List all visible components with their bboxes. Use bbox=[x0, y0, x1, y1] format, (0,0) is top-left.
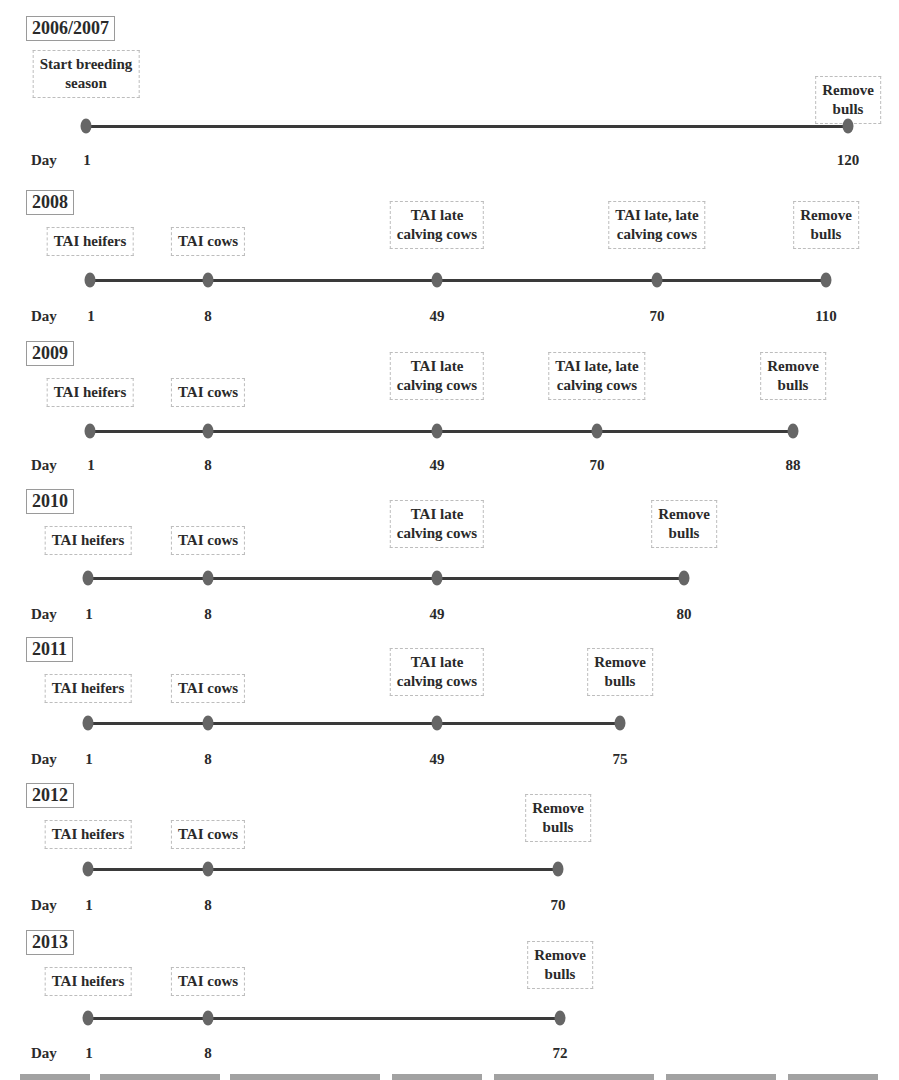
year-label: 2012 bbox=[26, 783, 74, 808]
day-axis-label: Day bbox=[31, 897, 57, 914]
day-axis-label: Day bbox=[31, 1045, 57, 1062]
event-marker bbox=[85, 273, 96, 288]
day-number: 72 bbox=[553, 1045, 568, 1062]
day-number: 70 bbox=[551, 897, 566, 914]
day-number: 8 bbox=[204, 751, 212, 768]
event-label: Remove bulls bbox=[793, 201, 859, 249]
event-label: TAI heifers bbox=[47, 378, 134, 407]
day-number: 8 bbox=[204, 457, 212, 474]
timeline-line bbox=[88, 577, 684, 580]
event-label: Remove bulls bbox=[815, 76, 881, 124]
day-number: 75 bbox=[613, 751, 628, 768]
event-label: TAI late, late calving cows bbox=[608, 201, 705, 249]
year-label: 2009 bbox=[26, 341, 74, 366]
event-marker bbox=[432, 571, 443, 586]
event-label: TAI cows bbox=[171, 526, 245, 555]
event-label: TAI cows bbox=[171, 227, 245, 256]
timeline-line bbox=[88, 722, 620, 725]
timeline-line bbox=[90, 279, 826, 282]
event-label: TAI late calving cows bbox=[390, 352, 484, 400]
day-number: 80 bbox=[677, 606, 692, 623]
event-label: TAI cows bbox=[171, 820, 245, 849]
year-label: 2006/2007 bbox=[26, 16, 115, 41]
event-marker bbox=[432, 424, 443, 439]
event-label: TAI heifers bbox=[45, 674, 132, 703]
event-label: TAI cows bbox=[171, 967, 245, 996]
event-marker bbox=[83, 571, 94, 586]
event-label: TAI heifers bbox=[45, 526, 132, 555]
event-label: TAI late, late calving cows bbox=[548, 352, 645, 400]
event-label: TAI heifers bbox=[45, 820, 132, 849]
event-label: TAI late calving cows bbox=[390, 648, 484, 696]
event-label: Remove bulls bbox=[525, 794, 591, 842]
day-number: 120 bbox=[837, 152, 860, 169]
event-marker bbox=[592, 424, 603, 439]
day-number: 49 bbox=[430, 308, 445, 325]
event-marker bbox=[553, 862, 564, 877]
event-marker bbox=[652, 273, 663, 288]
event-marker bbox=[203, 716, 214, 731]
event-label: Remove bulls bbox=[651, 500, 717, 548]
event-label: TAI heifers bbox=[47, 227, 134, 256]
event-marker bbox=[679, 571, 690, 586]
day-number: 1 bbox=[85, 1045, 93, 1062]
day-axis-label: Day bbox=[31, 152, 57, 169]
event-marker bbox=[203, 571, 214, 586]
event-marker bbox=[615, 716, 626, 731]
event-marker bbox=[555, 1011, 566, 1026]
event-label: Start breeding season bbox=[33, 50, 140, 98]
event-marker bbox=[788, 424, 799, 439]
day-number: 8 bbox=[204, 897, 212, 914]
timeline-line bbox=[88, 1017, 560, 1020]
event-label: TAI cows bbox=[171, 674, 245, 703]
event-marker bbox=[843, 119, 854, 134]
day-number: 49 bbox=[430, 751, 445, 768]
event-marker bbox=[203, 424, 214, 439]
figure-caption-cropped bbox=[20, 1074, 880, 1080]
event-label: Remove bulls bbox=[587, 648, 653, 696]
day-number: 8 bbox=[204, 1045, 212, 1062]
event-marker bbox=[432, 716, 443, 731]
day-axis-label: Day bbox=[31, 606, 57, 623]
day-number: 49 bbox=[430, 457, 445, 474]
day-axis-label: Day bbox=[31, 751, 57, 768]
event-label: TAI heifers bbox=[45, 967, 132, 996]
day-number: 1 bbox=[85, 751, 93, 768]
event-marker bbox=[83, 716, 94, 731]
day-number: 110 bbox=[815, 308, 837, 325]
event-marker bbox=[85, 424, 96, 439]
day-number: 70 bbox=[590, 457, 605, 474]
event-marker bbox=[83, 1011, 94, 1026]
day-number: 1 bbox=[87, 457, 95, 474]
timeline-line bbox=[88, 868, 558, 871]
event-marker bbox=[83, 862, 94, 877]
year-label: 2013 bbox=[26, 930, 74, 955]
day-axis-label: Day bbox=[31, 457, 57, 474]
event-marker bbox=[203, 862, 214, 877]
day-number: 8 bbox=[204, 308, 212, 325]
event-marker bbox=[81, 119, 92, 134]
event-label: Remove bulls bbox=[527, 941, 593, 989]
event-marker bbox=[432, 273, 443, 288]
event-label: TAI late calving cows bbox=[390, 500, 484, 548]
day-number: 1 bbox=[87, 308, 95, 325]
event-label: TAI cows bbox=[171, 378, 245, 407]
year-label: 2010 bbox=[26, 489, 74, 514]
year-label: 2011 bbox=[26, 637, 73, 662]
day-number: 1 bbox=[85, 606, 93, 623]
day-number: 70 bbox=[650, 308, 665, 325]
event-label: Remove bulls bbox=[760, 352, 826, 400]
day-number: 8 bbox=[204, 606, 212, 623]
day-axis-label: Day bbox=[31, 308, 57, 325]
day-number: 1 bbox=[85, 897, 93, 914]
event-marker bbox=[203, 273, 214, 288]
day-number: 88 bbox=[786, 457, 801, 474]
event-label: TAI late calving cows bbox=[390, 201, 484, 249]
event-marker bbox=[203, 1011, 214, 1026]
day-number: 1 bbox=[83, 152, 91, 169]
event-marker bbox=[821, 273, 832, 288]
year-label: 2008 bbox=[26, 190, 74, 215]
timeline-line bbox=[86, 125, 848, 128]
day-number: 49 bbox=[430, 606, 445, 623]
